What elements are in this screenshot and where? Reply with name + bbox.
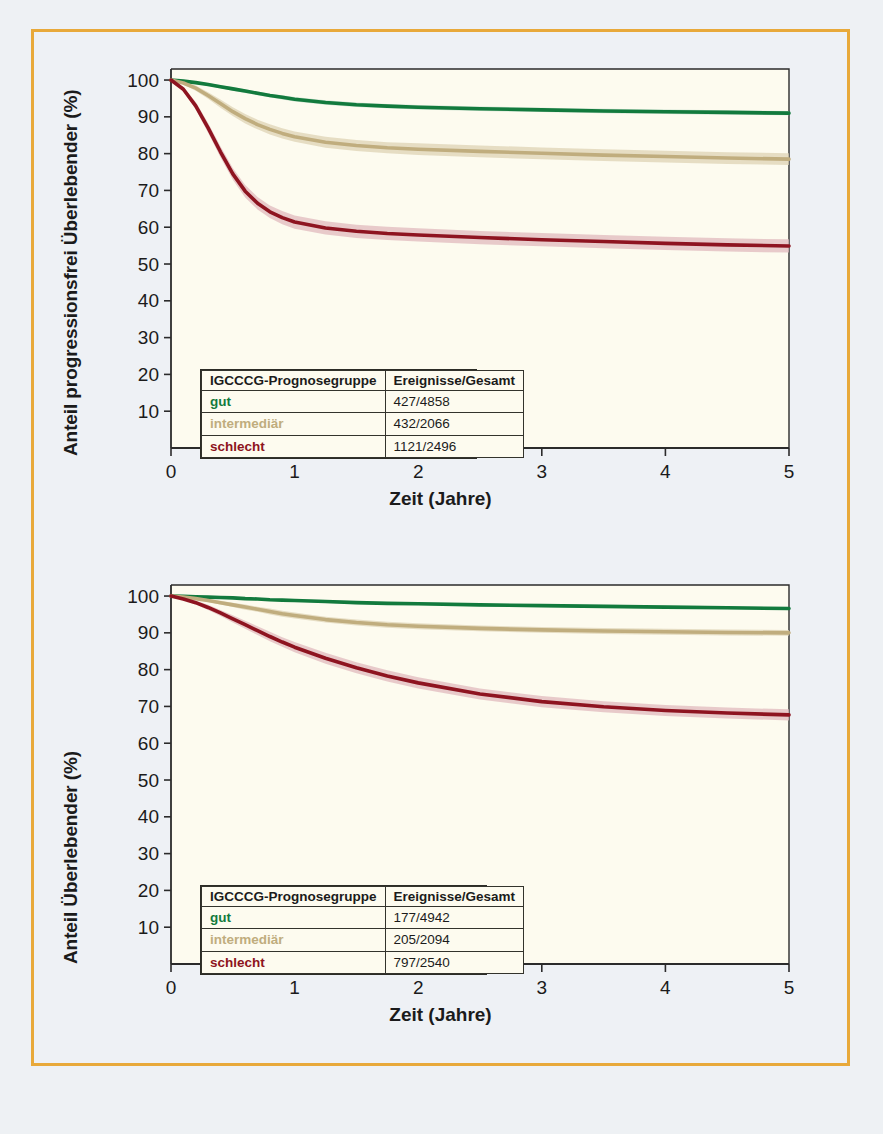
legend-row-intermediaer: intermediär 432/2066 xyxy=(202,413,524,435)
legend-row-schlecht: schlecht 1121/2496 xyxy=(202,435,524,457)
x-tick-label: 1 xyxy=(289,977,300,998)
x-tick-label: 5 xyxy=(784,977,795,998)
chart-panel-pfs: Anteil progressionsfrei Überlebender (%)… xyxy=(34,36,847,548)
y-tick-label: 70 xyxy=(138,180,159,201)
x-tick-label: 0 xyxy=(166,461,177,482)
legend-header-events: Ereignisse/Gesamt xyxy=(385,887,524,907)
y-tick-label: 40 xyxy=(138,806,159,827)
y-tick-label: 10 xyxy=(138,401,159,422)
x-tick-label: 4 xyxy=(660,461,671,482)
legend-events-gut: 177/4942 xyxy=(385,907,524,929)
legend-group-intermediaer: intermediär xyxy=(202,929,386,951)
x-axis-label-pfs: Zeit (Jahre) xyxy=(34,488,847,510)
y-tick-label: 60 xyxy=(138,217,159,238)
y-tick-label: 50 xyxy=(138,770,159,791)
legend-events-schlecht: 797/2540 xyxy=(385,951,524,973)
y-tick-label: 80 xyxy=(138,143,159,164)
x-axis-label-os: Zeit (Jahre) xyxy=(34,1004,847,1026)
legend-header-row: IGCCCG-Prognosegruppe Ereignisse/Gesamt xyxy=(202,371,524,391)
x-tick-label: 2 xyxy=(413,461,424,482)
x-tick-label: 3 xyxy=(537,977,548,998)
y-tick-label: 100 xyxy=(127,70,159,91)
legend-group-schlecht: schlecht xyxy=(202,951,386,973)
y-tick-label: 90 xyxy=(138,622,159,643)
y-tick-label: 50 xyxy=(138,254,159,275)
legend-row-schlecht: schlecht 797/2540 xyxy=(202,951,524,973)
y-tick-label: 10 xyxy=(138,917,159,938)
y-tick-label: 20 xyxy=(138,364,159,385)
y-tick-label: 80 xyxy=(138,659,159,680)
legend-group-gut: gut xyxy=(202,391,386,413)
x-tick-label: 1 xyxy=(289,461,300,482)
x-tick-label: 4 xyxy=(660,977,671,998)
x-tick-label: 5 xyxy=(784,461,795,482)
y-tick-label: 30 xyxy=(138,843,159,864)
legend-header-row: IGCCCG-Prognosegruppe Ereignisse/Gesamt xyxy=(202,887,524,907)
legend-row-gut: gut 177/4942 xyxy=(202,907,524,929)
legend-events-intermediaer: 205/2094 xyxy=(385,929,524,951)
chart-panel-os: Anteil Überlebender (%) 1020304050607080… xyxy=(34,552,847,1064)
x-tick-label: 3 xyxy=(537,461,548,482)
legend-header-group: IGCCCG-Prognosegruppe xyxy=(202,371,386,391)
legend-row-intermediaer: intermediär 205/2094 xyxy=(202,929,524,951)
y-axis-label-pfs: Anteil progressionsfrei Überlebender (%) xyxy=(60,89,82,456)
y-tick-label: 100 xyxy=(127,586,159,607)
figure-frame: Anteil progressionsfrei Überlebender (%)… xyxy=(31,29,850,1066)
y-tick-label: 90 xyxy=(138,106,159,127)
legend-row-gut: gut 427/4858 xyxy=(202,391,524,413)
legend-events-intermediaer: 432/2066 xyxy=(385,413,524,435)
y-tick-label: 20 xyxy=(138,880,159,901)
legend-group-schlecht: schlecht xyxy=(202,435,386,457)
y-tick-label: 40 xyxy=(138,290,159,311)
legend-table-pfs: IGCCCG-Prognosegruppe Ereignisse/Gesamt … xyxy=(200,369,477,459)
legend-group-intermediaer: intermediär xyxy=(202,413,386,435)
x-tick-label: 0 xyxy=(166,977,177,998)
legend-events-schlecht: 1121/2496 xyxy=(385,435,524,457)
y-tick-label: 70 xyxy=(138,696,159,717)
y-tick-label: 30 xyxy=(138,327,159,348)
legend-events-gut: 427/4858 xyxy=(385,391,524,413)
y-tick-label: 60 xyxy=(138,733,159,754)
legend-group-gut: gut xyxy=(202,907,386,929)
y-axis-label-os: Anteil Überlebender (%) xyxy=(60,751,82,964)
x-tick-label: 2 xyxy=(413,977,424,998)
legend-table-os: IGCCCG-Prognosegruppe Ereignisse/Gesamt … xyxy=(200,885,487,975)
legend-header-group: IGCCCG-Prognosegruppe xyxy=(202,887,386,907)
legend-header-events: Ereignisse/Gesamt xyxy=(385,371,524,391)
